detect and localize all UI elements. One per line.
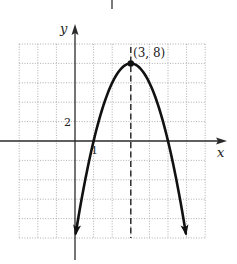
x-axis: [0, 138, 227, 145]
y-tick-label: 2: [64, 116, 71, 129]
x-tick-label: 1: [91, 144, 98, 157]
y-axis-label: y: [59, 21, 68, 36]
x-axis-label: x: [217, 145, 225, 160]
vertex-point: [128, 60, 134, 66]
parabola-chart: y x (3, 8) 1 2: [0, 0, 237, 264]
vertex-label: (3, 8): [133, 46, 165, 60]
